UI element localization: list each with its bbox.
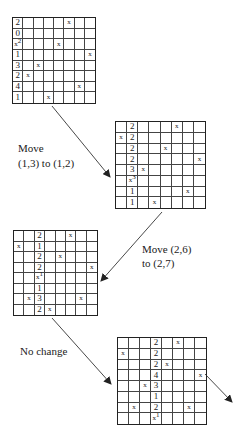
conflict-count: 1 [15,50,20,59]
queen-marker: x [199,372,203,379]
board-cell [195,360,206,371]
step2-label-line2: to (2,7) [142,257,174,270]
board-cell [116,187,127,198]
board-cell [140,349,151,360]
board-cell: 2 [127,154,138,165]
board-cell [14,252,24,263]
board-cell: x [24,294,34,305]
board-cell [87,242,97,253]
queen-marker: x [17,243,21,250]
board-cell [116,154,127,165]
step1-label-line2: (1,3) to (1,2) [18,157,74,170]
queen-marker: x [119,134,123,141]
queen-marker: x [58,253,62,260]
board-cell [14,284,24,295]
conflict-count: 3 [15,61,20,70]
board-cell [140,392,151,403]
board-cell [116,197,127,208]
board-cell [56,263,66,274]
conflict-count: 2 [154,360,159,369]
board-cell [23,39,33,50]
board-cell: 2 [127,122,138,133]
conflict-count: 2 [130,155,135,164]
board-cell: x [129,403,140,414]
board-cell: x [34,61,44,72]
board-cell [44,82,54,93]
queen-marker: x [186,188,190,195]
board-cell: 1 [13,50,23,61]
queen-marker: x [176,339,180,346]
board-cell [195,403,206,414]
board-cell [118,338,129,349]
board-cell [194,197,205,208]
board-cell [118,392,129,403]
board-cell [56,305,66,316]
board-cell [149,144,160,155]
board-cell [129,413,140,424]
board-cell [24,231,34,242]
board-cell [34,82,44,93]
board-cell [162,413,173,424]
board-cell [14,263,24,274]
board-cell: x [87,263,97,274]
board-cell [76,284,86,295]
board-cell [172,144,183,155]
board-cell: x [194,154,205,165]
conflict-count: 1 [130,198,135,207]
board-cell [54,18,64,29]
board-cell [162,403,173,414]
board-cell [172,176,183,187]
board-cell [44,18,54,29]
board-cell [116,144,127,155]
board-cell [118,381,129,392]
board-cell [66,263,76,274]
board-cell [45,263,55,274]
conflict-count: 2 [37,231,42,240]
board-cell [76,252,86,263]
board-cell [149,154,160,165]
queen-marker: x [153,199,157,206]
board-cell [34,18,44,29]
board-cell: 2 [127,133,138,144]
board-cell [138,187,149,198]
board-cell: 2 [127,144,138,155]
queen-marker: x [36,62,40,69]
board-cell [173,413,184,424]
board-cell [45,294,55,305]
board-cell [75,50,85,61]
board-cell [85,18,95,29]
board-cell [66,294,76,305]
board-cell [173,403,184,414]
board-cell [23,29,33,40]
queen-marker: x [88,51,92,58]
board-cell [162,370,173,381]
board-cell [24,252,34,263]
board-cell [194,133,205,144]
board-cell [24,263,34,274]
board-cell: x [118,349,129,360]
board-grid-3: 2xx12x2xx11x3x2x [13,230,98,316]
board-cell [66,305,76,316]
conflict-count: 4 [15,82,20,91]
board-cell: 1 [13,92,23,103]
board-cell [54,29,64,40]
conflict-count: 1 [156,412,160,419]
board-cell [76,305,86,316]
board-cell [194,144,205,155]
board-cell [129,360,140,371]
board-cell [118,370,129,381]
board-cell [129,381,140,392]
board-cell: x [85,50,95,61]
board-cell [14,305,24,316]
queen-marker: x [90,264,94,271]
board-cell [118,360,129,371]
board-cell [23,61,33,72]
queen-marker: x [79,295,83,302]
conflict-count: 2 [130,122,135,131]
board-cell [85,29,95,40]
board-cell [161,133,172,144]
board-cell [56,284,66,295]
board-cell [172,165,183,176]
board-cell [54,71,64,82]
board-cell: 3 [35,294,45,305]
